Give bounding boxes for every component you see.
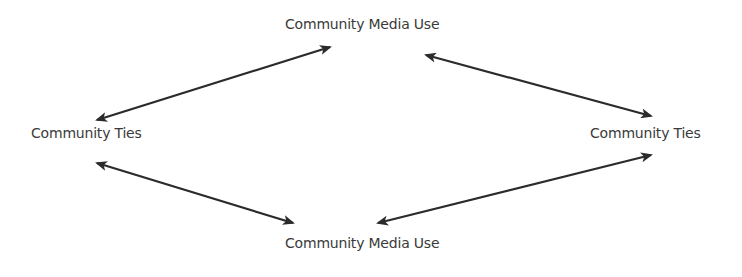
node-community-media-use-bottom: Community Media Use — [285, 235, 439, 251]
node-community-ties-right: Community Ties — [590, 125, 701, 141]
arrow-left-bottom — [97, 163, 293, 223]
arrow-left-top — [97, 47, 330, 120]
arrow-top-right — [426, 55, 651, 116]
arrow-bottom-right — [378, 155, 651, 223]
node-community-media-use-top: Community Media Use — [285, 16, 439, 32]
node-community-ties-left: Community Ties — [31, 125, 142, 141]
